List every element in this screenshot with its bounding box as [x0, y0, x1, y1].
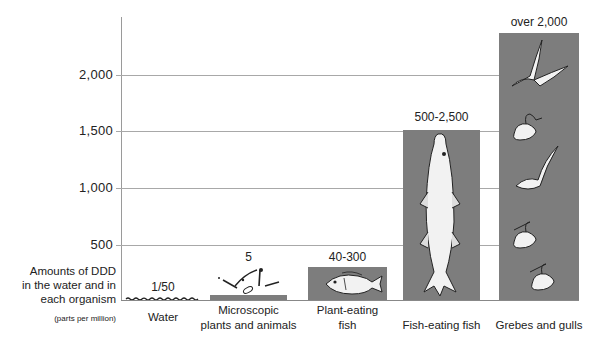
- category-label-microscopic: Microscopic plants and animals: [196, 303, 301, 333]
- y-axis-label: Amounts of DDD in the water and in each …: [0, 264, 116, 326]
- category-label-grebes-gulls: Grebes and gulls: [489, 318, 589, 333]
- value-label-grebes-gulls: over 2,000: [492, 15, 586, 29]
- y-axis-units: (parts per million): [0, 312, 116, 326]
- category-label-fish-eating-fish: Fish-eating fish: [393, 318, 490, 333]
- category-label-plant-eating-fish: Plant-eating fish: [300, 303, 395, 333]
- predatory-fish-icon: [420, 132, 464, 298]
- plankton-icon: [215, 266, 285, 294]
- value-label-microscopic: 5: [210, 250, 287, 264]
- fish-icon: [322, 270, 384, 296]
- x-axis-baseline: [121, 300, 579, 301]
- value-label-fish-eating-fish: 500-2,500: [395, 110, 488, 124]
- category-label-water: Water: [122, 310, 204, 325]
- value-label-water: 1/50: [122, 280, 204, 294]
- y-tick-2000: 2,000: [13, 67, 113, 82]
- birds-icon: [502, 36, 578, 298]
- y-tick-1000: 1,000: [13, 180, 113, 195]
- y-tick-500: 500: [13, 237, 113, 252]
- y-axis: [121, 17, 122, 300]
- y-tick-1500: 1,500: [13, 123, 113, 138]
- value-label-plant-eating-fish: 40-300: [308, 250, 387, 264]
